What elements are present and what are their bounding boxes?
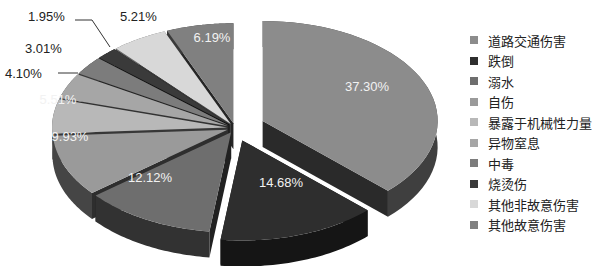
legend-swatch (470, 57, 478, 65)
legend-label: 溺水 (488, 72, 514, 91)
legend-swatch (470, 159, 478, 167)
leader-line (92, 20, 110, 47)
legend-label: 其他故意伤害 (488, 215, 566, 234)
slice-label: 37.30% (345, 79, 390, 94)
legend-item: 其他非故意伤害 (470, 194, 592, 215)
legend-label: 暴露于机械性力量 (488, 113, 592, 132)
legend-swatch (470, 77, 478, 85)
legend-label: 道路交通伤害 (488, 31, 566, 50)
legend-swatch (470, 221, 478, 229)
legend-swatch (470, 139, 478, 147)
slice-label: 9.93% (52, 129, 89, 144)
legend: 道路交通伤害 跌倒 溺水 自伤 暴露于机械性力量 异物窒息 中毒 烧烫伤 其他非… (470, 30, 592, 235)
slice-label: 5.51% (40, 92, 77, 107)
legend-label: 跌倒 (488, 51, 514, 70)
slice-label: 3.01% (25, 41, 62, 56)
legend-label: 异物窒息 (488, 133, 540, 152)
legend-item: 异物窒息 (470, 133, 592, 154)
legend-label: 烧烫伤 (488, 174, 527, 193)
legend-swatch (470, 36, 478, 44)
legend-item: 跌倒 (470, 51, 592, 72)
legend-label: 自伤 (488, 92, 514, 111)
legend-item: 溺水 (470, 71, 592, 92)
legend-swatch (470, 200, 478, 208)
legend-item: 烧烫伤 (470, 174, 592, 195)
slice-label: 6.19% (194, 30, 231, 45)
legend-item: 自伤 (470, 92, 592, 113)
legend-label: 中毒 (488, 154, 514, 173)
slice-label: 12.12% (128, 170, 173, 185)
legend-swatch (470, 98, 478, 106)
legend-item: 中毒 (470, 153, 592, 174)
legend-label: 其他非故意伤害 (488, 195, 579, 214)
slice-label: 1.95% (28, 9, 65, 24)
slice-label: 4.10% (5, 66, 42, 81)
legend-item: 道路交通伤害 (470, 30, 592, 51)
legend-item: 其他故意伤害 (470, 215, 592, 236)
legend-swatch (470, 180, 478, 188)
slice-label: 14.68% (259, 175, 304, 190)
legend-item: 暴露于机械性力量 (470, 112, 592, 133)
legend-swatch (470, 118, 478, 126)
slice-label: 5.21% (120, 9, 157, 24)
